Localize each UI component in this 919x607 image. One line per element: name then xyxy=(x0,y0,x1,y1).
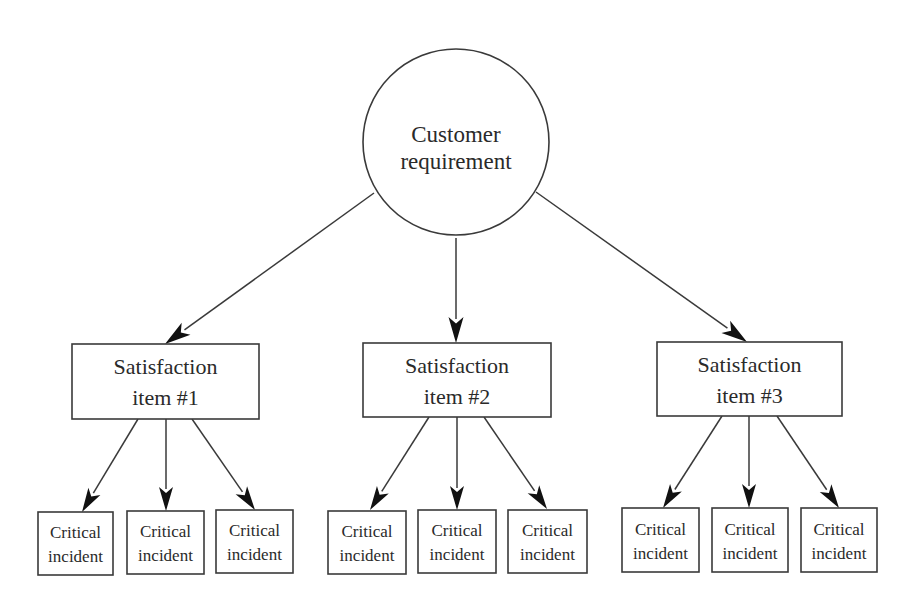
arrowhead-icon xyxy=(528,485,547,509)
satisfaction-item-label-line-1: Satisfaction xyxy=(698,352,802,377)
critical-incident-label-line-1: Critical xyxy=(229,521,280,540)
satisfaction-item-2: Satisfactionitem #2 xyxy=(363,343,551,417)
requirement-hierarchy-diagram: CustomerrequirementSatisfactionitem #1Cr… xyxy=(0,0,919,607)
arrowhead-icon xyxy=(663,484,682,508)
critical-incident-2-1: Criticalincident xyxy=(328,511,406,574)
arrow-line xyxy=(184,193,374,330)
root-node-customer-requirement: Customerrequirement xyxy=(363,49,549,235)
arrow-root-to-item-1 xyxy=(165,193,374,344)
arrow-item-3-to-incident-2 xyxy=(742,416,756,508)
critical-incident-3-2: Criticalincident xyxy=(712,508,788,572)
arrow-item-2-to-incident-3 xyxy=(484,417,547,509)
arrow-line xyxy=(192,419,242,492)
critical-incident-label-line-2: incident xyxy=(227,545,282,564)
arrow-item-1-to-incident-3 xyxy=(192,419,255,510)
satisfaction-item-label-line-2: item #3 xyxy=(716,383,783,408)
critical-incident-label-line-2: incident xyxy=(430,545,485,564)
arrowhead-icon xyxy=(82,488,100,512)
satisfaction-item-3: Satisfactionitem #3 xyxy=(657,342,842,416)
satisfaction-item-1: Satisfactionitem #1 xyxy=(72,344,259,419)
critical-incident-label-line-1: Critical xyxy=(432,521,483,540)
critical-incident-label-line-2: incident xyxy=(812,544,867,563)
satisfaction-item-label-line-1: Satisfaction xyxy=(405,353,509,378)
critical-incident-label-line-1: Critical xyxy=(814,520,865,539)
arrowhead-icon xyxy=(370,486,389,510)
critical-incident-label-line-1: Critical xyxy=(635,520,686,539)
arrow-line xyxy=(675,416,722,489)
critical-incident-label-line-1: Critical xyxy=(725,520,776,539)
satisfaction-item-label-line-1: Satisfaction xyxy=(114,354,218,379)
arrow-root-to-item-2 xyxy=(449,238,464,343)
arrow-item-1-to-incident-1 xyxy=(82,419,138,512)
critical-incident-label-line-1: Critical xyxy=(140,522,191,541)
critical-incident-label-line-2: incident xyxy=(340,546,395,565)
critical-incident-label-line-2: incident xyxy=(48,547,103,566)
critical-incident-label-line-2: incident xyxy=(633,544,688,563)
critical-incident-3-3: Criticalincident xyxy=(801,508,877,572)
critical-incident-label-line-1: Critical xyxy=(342,522,393,541)
critical-incident-2-2: Criticalincident xyxy=(418,510,496,573)
root-label-line-1: Customer xyxy=(411,122,501,147)
critical-incident-1-3: Criticalincident xyxy=(216,510,293,573)
arrowhead-icon xyxy=(165,323,190,344)
critical-incident-1-1: Criticalincident xyxy=(38,512,113,575)
arrow-item-3-to-incident-1 xyxy=(663,416,722,508)
arrow-line xyxy=(777,416,827,490)
critical-incident-3-1: Criticalincident xyxy=(622,508,699,572)
root-label-line-2: requirement xyxy=(400,149,512,174)
critical-incident-label-line-1: Critical xyxy=(50,523,101,542)
arrow-line xyxy=(536,192,727,328)
arrowhead-icon xyxy=(449,317,464,343)
critical-incident-label-line-2: incident xyxy=(723,544,778,563)
arrow-item-3-to-incident-3 xyxy=(777,416,839,508)
arrowhead-icon xyxy=(159,487,173,511)
critical-incident-1-2: Criticalincident xyxy=(127,511,204,574)
critical-incident-2-3: Criticalincident xyxy=(508,510,587,573)
arrow-root-to-item-3 xyxy=(536,192,747,342)
arrow-item-2-to-incident-1 xyxy=(370,417,429,510)
arrow-item-1-to-incident-2 xyxy=(159,419,173,511)
arrowhead-icon xyxy=(236,486,255,510)
critical-incident-label-line-1: Critical xyxy=(522,521,573,540)
satisfaction-item-label-line-2: item #1 xyxy=(132,385,199,410)
arrowhead-icon xyxy=(820,484,839,508)
critical-incident-label-line-2: incident xyxy=(138,546,193,565)
critical-incident-label-line-2: incident xyxy=(520,545,575,564)
arrow-line xyxy=(382,417,429,491)
arrow-line xyxy=(484,417,535,491)
satisfaction-item-label-line-2: item #2 xyxy=(424,384,491,409)
arrowhead-icon xyxy=(450,486,464,510)
arrowhead-icon xyxy=(742,484,756,508)
arrow-item-2-to-incident-2 xyxy=(450,417,464,510)
arrowhead-icon xyxy=(721,321,747,342)
arrow-line xyxy=(93,419,138,493)
